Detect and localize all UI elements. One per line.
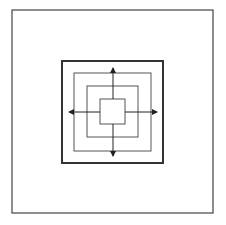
diagram-canvas <box>0 0 226 225</box>
nested-squares-diagram <box>0 0 226 225</box>
direction-arrows <box>69 68 157 156</box>
outer-frame <box>12 10 213 213</box>
square-inner <box>100 99 125 124</box>
